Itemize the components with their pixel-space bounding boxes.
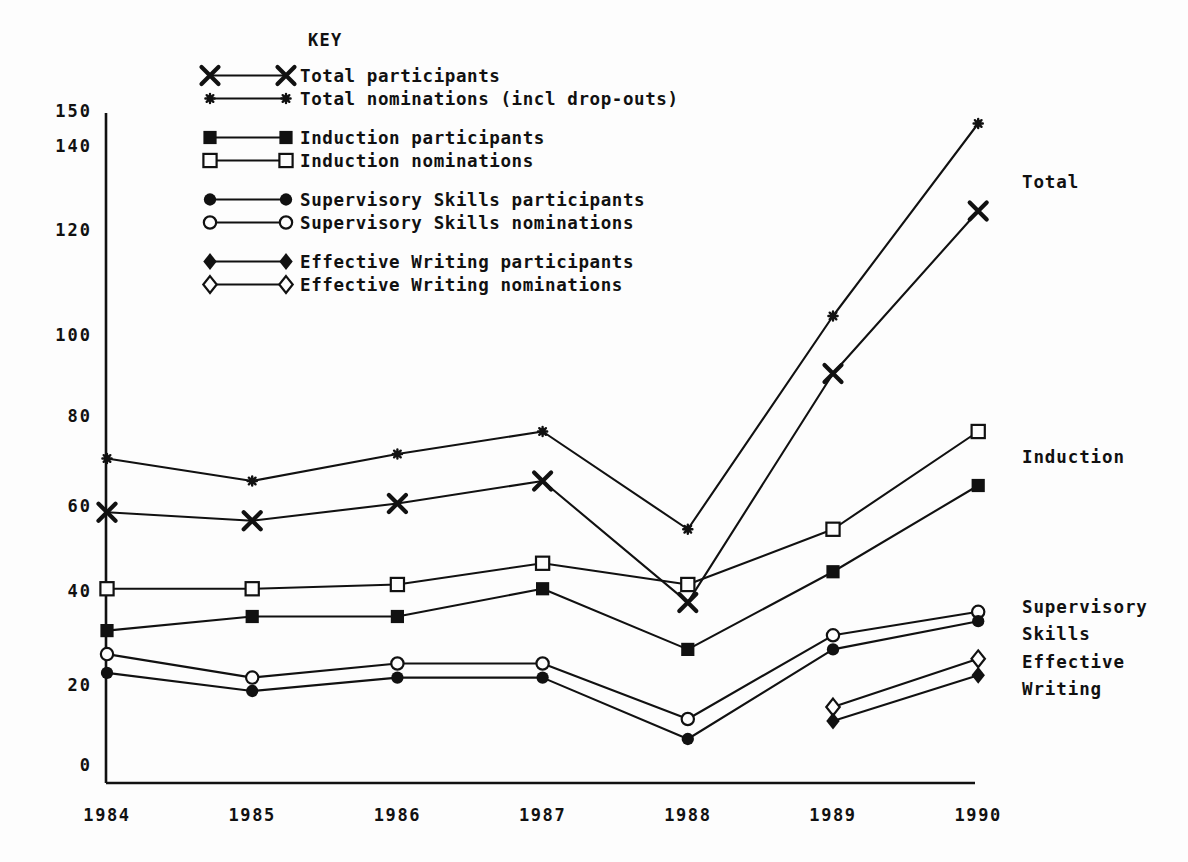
key-label-supervisory_participants: Supervisory Skills participants (300, 190, 645, 210)
key-group-3: Effective Writing participantsEffective … (196, 250, 816, 296)
key-entry-supervisory_nominations[interactable]: Supervisory Skills nominations (196, 211, 816, 234)
key-sample-induction_participants (196, 126, 300, 149)
x-tick-label-1988: 1988 (664, 805, 711, 825)
key-group-0: Total participantsTotal nominations (inc… (196, 64, 816, 110)
annotation-supervisory: Supervisory (1022, 597, 1148, 617)
annotation-total: Total (1022, 172, 1079, 192)
annotation-writing: Writing (1022, 679, 1102, 699)
key-sample-effective_writing_nominations (196, 273, 300, 296)
open-diamond-icon (203, 276, 216, 293)
key-entry-induction_participants[interactable]: Induction participants (196, 126, 816, 149)
x-tick-label-1987: 1987 (519, 805, 566, 825)
key-label-induction_participants: Induction participants (300, 128, 545, 148)
key-entry-total_nominations[interactable]: Total nominations (incl drop-outs) (196, 87, 816, 110)
key-label-induction_nominations: Induction nominations (300, 151, 534, 171)
open-circle-icon (204, 216, 216, 228)
annotation-skills: Skills (1022, 624, 1091, 644)
key-label-effective_writing_nominations: Effective Writing nominations (300, 275, 623, 295)
x-tick-label-1984: 1984 (83, 805, 130, 825)
key-sample-supervisory_nominations (196, 211, 300, 234)
key-entry-effective_writing_nominations[interactable]: Effective Writing nominations (196, 273, 816, 296)
key-sample-induction_nominations (196, 149, 300, 172)
annotation-induction: Induction (1022, 447, 1125, 467)
key-label-supervisory_nominations: Supervisory Skills nominations (300, 213, 634, 233)
key-title: KEY (308, 30, 816, 50)
key-sample-effective_writing_participants (196, 250, 300, 273)
x-tick-label-1985: 1985 (229, 805, 276, 825)
filled-diamond-icon (279, 253, 292, 270)
filled-square-icon (279, 131, 292, 144)
key-label-total_nominations: Total nominations (incl drop-outs) (300, 89, 679, 109)
filled-circle-icon (204, 193, 216, 205)
chart-key: KEY Total participantsTotal nominations … (196, 30, 816, 312)
key-group-2: Supervisory Skills participantsSuperviso… (196, 188, 816, 234)
key-sample-total_nominations (196, 87, 300, 110)
key-entry-total_participants[interactable]: Total participants (196, 64, 816, 87)
key-entry-induction_nominations[interactable]: Induction nominations (196, 149, 816, 172)
filled-circle-icon (280, 193, 292, 205)
key-sample-total_participants (196, 64, 300, 87)
key-entry-supervisory_participants[interactable]: Supervisory Skills participants (196, 188, 816, 211)
small-star-icon (281, 94, 290, 103)
key-label-effective_writing_participants: Effective Writing participants (300, 252, 634, 272)
x-tick-label-1986: 1986 (374, 805, 421, 825)
key-groups: Total participantsTotal nominations (inc… (196, 64, 816, 296)
open-square-icon (203, 154, 216, 167)
key-label-total_participants: Total participants (300, 66, 500, 86)
open-square-icon (279, 154, 292, 167)
open-circle-icon (280, 216, 292, 228)
filled-diamond-icon (203, 253, 216, 270)
key-entry-effective_writing_participants[interactable]: Effective Writing participants (196, 250, 816, 273)
key-sample-supervisory_participants (196, 188, 300, 211)
filled-square-icon (203, 131, 216, 144)
small-star-icon (205, 94, 214, 103)
annotation-effective: Effective (1022, 652, 1125, 672)
key-group-1: Induction participantsInduction nominati… (196, 126, 816, 172)
x-tick-label-1989: 1989 (809, 805, 856, 825)
open-diamond-icon (279, 276, 292, 293)
x-tick-label-1990: 1990 (955, 805, 1002, 825)
chart-page: 020406080100120140150 198419851986198719… (0, 0, 1188, 862)
